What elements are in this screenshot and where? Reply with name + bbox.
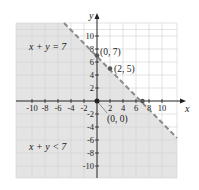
svg-text:6: 6 xyxy=(90,57,94,67)
inequality-graph: -10 -8 -6 -4 -2 2 4 6 8 10 10 8 6 4 2 -2… xyxy=(0,0,199,190)
svg-text:6: 6 xyxy=(134,103,138,113)
svg-text:-8: -8 xyxy=(87,148,94,158)
label-0-7: (0, 7) xyxy=(100,47,121,58)
svg-text:-2: -2 xyxy=(87,109,94,119)
label-0-0: (0, 0) xyxy=(107,114,128,125)
svg-text:-10: -10 xyxy=(83,161,94,171)
inequality-label: x + y < 7 xyxy=(28,141,67,152)
svg-text:-6: -6 xyxy=(54,103,61,113)
label-2-5: (2, 5) xyxy=(114,64,135,75)
svg-text:2: 2 xyxy=(108,103,112,113)
point-0-0 xyxy=(95,99,100,104)
point-2-5 xyxy=(108,66,113,71)
svg-text:-4: -4 xyxy=(87,122,95,132)
svg-text:-6: -6 xyxy=(87,135,94,145)
equation-label: x + y = 7 xyxy=(28,41,67,52)
svg-text:10: 10 xyxy=(86,31,95,41)
point-0-7 xyxy=(95,53,100,58)
svg-text:10: 10 xyxy=(158,103,167,113)
svg-text:-8: -8 xyxy=(41,103,48,113)
svg-text:-4: -4 xyxy=(67,103,75,113)
point-7-0 xyxy=(140,99,145,104)
y-axis-label: y xyxy=(88,10,94,21)
svg-text:-10: -10 xyxy=(26,103,37,113)
x-axis-label: x xyxy=(184,103,190,114)
svg-text:2: 2 xyxy=(90,83,94,93)
